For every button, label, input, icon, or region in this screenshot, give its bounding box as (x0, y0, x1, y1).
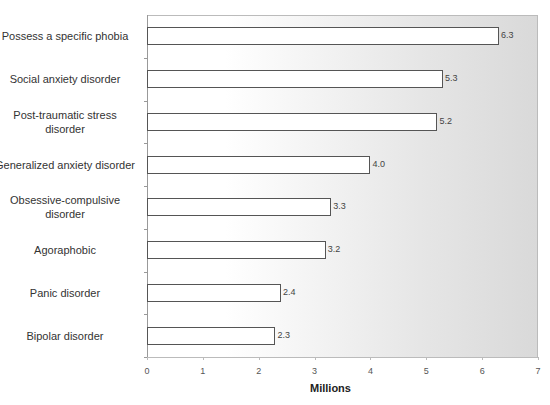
x-tick (538, 357, 539, 360)
category-label: Generalized anxiety disorder (0, 158, 140, 172)
bar-value-label: 5.2 (439, 116, 452, 126)
category-label: Agoraphobic (0, 243, 140, 257)
category-label-line: Possess a specific phobia (0, 29, 140, 43)
category-label: Bipolar disorder (0, 329, 140, 343)
x-tick (370, 357, 371, 360)
y-axis (147, 15, 148, 358)
bar (147, 27, 499, 45)
y-tick (144, 186, 147, 187)
category-label-line: Agoraphobic (0, 243, 140, 257)
bar-value-label: 6.3 (501, 30, 514, 40)
y-tick (144, 143, 147, 144)
x-tick-label: 4 (360, 366, 380, 376)
x-tick-label: 1 (193, 366, 213, 376)
bar (147, 284, 281, 302)
y-tick (144, 272, 147, 273)
plot-area (147, 15, 538, 357)
category-label: Possess a specific phobia (0, 29, 140, 43)
x-tick-label: 6 (472, 366, 492, 376)
y-tick (144, 101, 147, 102)
x-tick-label: 7 (528, 366, 548, 376)
bar (147, 327, 275, 345)
x-tick-label: 2 (249, 366, 269, 376)
bar (147, 113, 437, 131)
category-label-line: Obsessive-compulsive (0, 193, 140, 207)
y-tick (144, 229, 147, 230)
x-axis-title: Millions (310, 382, 351, 394)
category-label: Obsessive-compulsivedisorder (0, 193, 140, 221)
bar-value-label: 4.0 (372, 159, 385, 169)
x-tick (426, 357, 427, 360)
bar-value-label: 5.3 (445, 73, 458, 83)
x-tick (482, 357, 483, 360)
x-axis (147, 357, 538, 358)
category-label-line: Generalized anxiety disorder (0, 158, 140, 172)
category-label: Social anxiety disorder (0, 72, 140, 86)
bar (147, 241, 326, 259)
bar-value-label: 2.3 (277, 330, 290, 340)
x-tick (259, 357, 260, 360)
category-label-line: Bipolar disorder (0, 329, 140, 343)
bar-value-label: 2.4 (283, 287, 296, 297)
bar-value-label: 3.3 (333, 201, 346, 211)
x-tick (315, 357, 316, 360)
x-tick-label: 5 (416, 366, 436, 376)
category-label-line: disorder (0, 207, 140, 221)
bar (147, 198, 331, 216)
category-label: Panic disorder (0, 286, 140, 300)
bar (147, 156, 370, 174)
x-tick-label: 0 (137, 366, 157, 376)
bar (147, 70, 443, 88)
x-tick (203, 357, 204, 360)
bar-value-label: 3.2 (328, 244, 341, 254)
category-label-line: Social anxiety disorder (0, 72, 140, 86)
category-label: Post-traumatic stressdisorder (0, 108, 140, 136)
y-tick (144, 58, 147, 59)
x-tick (147, 357, 148, 360)
category-label-line: disorder (0, 122, 140, 136)
category-label-line: Post-traumatic stress (0, 108, 140, 122)
y-tick (144, 314, 147, 315)
x-tick-label: 3 (305, 366, 325, 376)
category-label-line: Panic disorder (0, 286, 140, 300)
